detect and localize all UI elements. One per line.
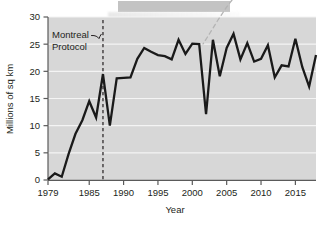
x-tick-label: 1990 bbox=[113, 187, 134, 198]
ozone-hole-area-chart: 051015202530 197919851990199520002005201… bbox=[0, 0, 328, 226]
figure-container: 051015202530 197919851990199520002005201… bbox=[0, 0, 328, 226]
y-tick-label: 0 bbox=[35, 174, 40, 185]
y-tick-label: 30 bbox=[29, 11, 40, 22]
x-tick-label: 1979 bbox=[37, 187, 58, 198]
y-tick-label: 10 bbox=[29, 120, 40, 131]
x-tick-label: 1985 bbox=[79, 187, 100, 198]
y-tick-label: 20 bbox=[29, 66, 40, 77]
montreal-protocol-label-line1: Montreal bbox=[52, 29, 89, 40]
x-tick-label: 2005 bbox=[216, 187, 237, 198]
x-tick-label: 2010 bbox=[250, 187, 271, 198]
x-axis-ticks: 19791985199019952000200520102015 bbox=[37, 180, 306, 198]
x-axis-title: Year bbox=[165, 204, 184, 215]
y-tick-label: 15 bbox=[29, 93, 40, 104]
y-axis-title: Millions of sq km bbox=[4, 64, 15, 134]
x-tick-label: 2015 bbox=[285, 187, 306, 198]
montreal-protocol-label-line2: Protocol bbox=[52, 41, 87, 52]
x-tick-label: 2000 bbox=[182, 187, 203, 198]
x-tick-label: 1995 bbox=[147, 187, 168, 198]
y-tick-label: 5 bbox=[35, 147, 40, 158]
y-axis-ticks: 051015202530 bbox=[29, 11, 48, 185]
y-tick-label: 25 bbox=[29, 39, 40, 50]
